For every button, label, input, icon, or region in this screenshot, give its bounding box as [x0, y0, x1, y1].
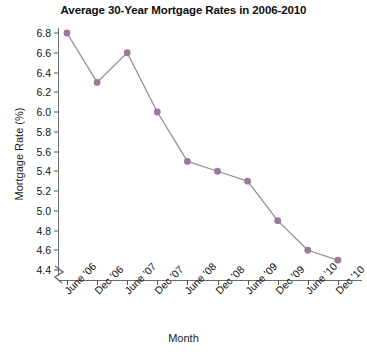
data-point	[124, 49, 131, 56]
data-series	[58, 28, 362, 280]
series-line	[67, 33, 338, 260]
chart-title: Average 30-Year Mortgage Rates in 2006-2…	[0, 4, 367, 16]
data-point	[154, 109, 161, 116]
y-axis-title: Mortgage Rate (%)	[13, 74, 25, 234]
chart-container: Average 30-Year Mortgage Rates in 2006-2…	[0, 0, 367, 357]
data-point	[214, 168, 221, 175]
plot-area: 6.86.66.46.26.05.85.65.45.25.04.84.64.4 …	[58, 28, 362, 280]
data-point	[184, 158, 191, 165]
data-point	[244, 178, 251, 185]
series-markers	[64, 30, 342, 264]
data-point	[64, 30, 71, 37]
data-point	[335, 257, 342, 264]
data-point	[304, 247, 311, 254]
x-axis-title: Month	[0, 332, 367, 344]
data-point	[274, 217, 281, 224]
data-point	[94, 79, 101, 86]
